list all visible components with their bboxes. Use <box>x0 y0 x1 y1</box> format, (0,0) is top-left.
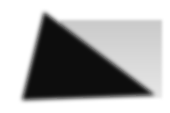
triangle-polygon <box>22 12 155 100</box>
dark-triangle-shape <box>0 0 170 113</box>
image-scene <box>0 0 170 113</box>
